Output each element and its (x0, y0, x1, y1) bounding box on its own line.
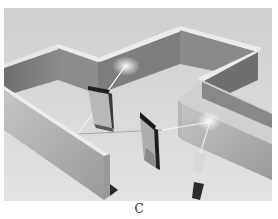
panel-label: C (0, 202, 278, 216)
maze-render-figure (4, 8, 272, 201)
reflection-glow (112, 56, 140, 76)
